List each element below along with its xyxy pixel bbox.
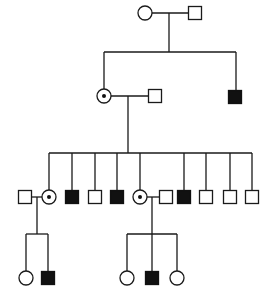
male-square-icon <box>200 191 213 204</box>
affected-male-square-icon <box>229 91 242 104</box>
male-square-icon <box>224 191 237 204</box>
individual-II-2 <box>149 90 162 103</box>
individual-III-8 <box>178 191 191 204</box>
affected-male-square-icon <box>111 191 124 204</box>
individual-III-5 <box>111 191 124 204</box>
individual-II-3 <box>229 91 242 104</box>
individual-III-6 <box>133 190 147 204</box>
male-square-icon <box>246 191 259 204</box>
female-circle-icon <box>120 271 134 285</box>
male-square-icon <box>189 7 202 20</box>
individual-IV-1 <box>19 271 33 285</box>
individual-III-4 <box>89 191 102 204</box>
affected-male-square-icon <box>178 191 191 204</box>
individual-II-1 <box>97 89 111 103</box>
individual-III-9 <box>200 191 213 204</box>
male-square-icon <box>149 90 162 103</box>
female-circle-icon <box>19 271 33 285</box>
affected-male-square-icon <box>146 272 159 285</box>
carrier-dot-icon <box>47 195 51 199</box>
female-circle-icon <box>138 6 152 20</box>
individual-IV-4 <box>146 272 159 285</box>
individual-I-2 <box>189 7 202 20</box>
connector-lines <box>26 13 252 271</box>
pedigree-chart <box>0 0 268 303</box>
affected-male-square-icon <box>42 272 55 285</box>
individual-I-1 <box>138 6 152 20</box>
male-square-icon <box>89 191 102 204</box>
individual-III-11 <box>246 191 259 204</box>
carrier-dot-icon <box>138 195 142 199</box>
carrier-dot-icon <box>102 94 106 98</box>
individual-IV-2 <box>42 272 55 285</box>
individual-III-10 <box>224 191 237 204</box>
individual-IV-5 <box>170 271 184 285</box>
individual-IV-3 <box>120 271 134 285</box>
individual-III-7 <box>160 191 173 204</box>
male-square-icon <box>160 191 173 204</box>
individual-symbols <box>19 6 259 285</box>
male-square-icon <box>19 191 32 204</box>
affected-male-square-icon <box>66 191 79 204</box>
individual-III-3 <box>66 191 79 204</box>
individual-III-1 <box>19 191 32 204</box>
female-circle-icon <box>170 271 184 285</box>
individual-III-2 <box>42 190 56 204</box>
